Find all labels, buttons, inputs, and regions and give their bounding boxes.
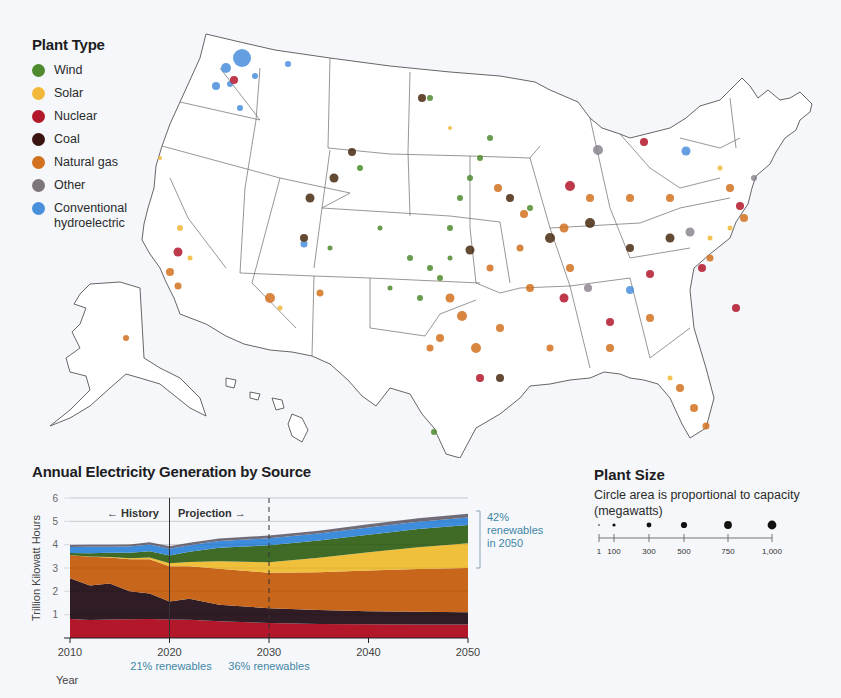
- legend-label: Coal: [54, 132, 80, 147]
- coal-swatch-icon: [32, 133, 45, 146]
- x-tick-label: 2010: [58, 646, 82, 658]
- legend-label-line2: hydroelectric: [54, 216, 127, 231]
- legend-item-natural-gas: Natural gas: [32, 155, 172, 170]
- generation-area-chart: 123456 20102020203020402050 Trillion Kil…: [28, 488, 568, 698]
- y-tick-label: 1: [52, 609, 58, 620]
- legend-label: Nuclear: [54, 109, 97, 124]
- renewables-2050-note-line2: renewables: [487, 524, 544, 536]
- renewables-2030-note: 36% renewables: [228, 660, 310, 672]
- size-circles: [598, 521, 776, 530]
- size-tick-label: 500: [677, 547, 691, 556]
- chart-title: Annual Electricity Generation by Source: [32, 463, 311, 480]
- hydroelectric-swatch-icon: [32, 202, 45, 215]
- legend-item-hydroelectric: Conventional hydroelectric: [32, 201, 172, 231]
- legend-label: Wind: [54, 63, 82, 78]
- legend-item-wind: Wind: [32, 63, 172, 78]
- size-tick-label: 300: [642, 547, 656, 556]
- hawaii-maui: [272, 398, 284, 410]
- plant-type-legend-title: Plant Type: [32, 36, 172, 53]
- y-tick-label: 2: [52, 586, 58, 597]
- renewables-2050-note-line3: in 2050: [487, 537, 523, 549]
- size-tick-label: 750: [721, 547, 735, 556]
- plant-size-legend-title: Plant Size: [594, 466, 834, 483]
- x-axis-ticks: 20102020203020402050: [58, 638, 480, 658]
- x-tick-label: 2020: [157, 646, 181, 658]
- solar-swatch-icon: [32, 87, 45, 100]
- other-swatch-icon: [32, 179, 45, 192]
- x-tick-label: 2050: [456, 646, 480, 658]
- history-label: ← History: [107, 507, 160, 519]
- y-axis-ticks: 123456: [52, 493, 58, 621]
- plant-size-scale: 1 100 300 500 750 1,000: [594, 516, 794, 566]
- y-tick-label: 4: [52, 539, 58, 550]
- nuclear-swatch-icon: [32, 110, 45, 123]
- legend-label: Natural gas: [54, 155, 118, 170]
- legend-item-solar: Solar: [32, 86, 172, 101]
- x-tick-label: 2040: [356, 646, 380, 658]
- legend-item-coal: Coal: [32, 132, 172, 147]
- legend-label: Conventional hydroelectric: [54, 201, 127, 231]
- x-axis-label: Year: [56, 674, 79, 686]
- size-axis: [599, 534, 772, 542]
- size-tick-label: 1,000: [762, 547, 783, 556]
- hawaii-kauai: [226, 378, 236, 388]
- legend-label: Other: [54, 178, 85, 193]
- size-tick-label: 100: [607, 547, 621, 556]
- plant-size-legend: Plant Size Circle area is proportional t…: [594, 466, 834, 519]
- size-tick-label: 1: [597, 547, 602, 556]
- renewables-2020-note: 21% renewables: [130, 660, 212, 672]
- hawaii-oahu: [250, 392, 260, 400]
- x-tick-label: 2030: [257, 646, 281, 658]
- plant-size-subtitle-line1: Circle area is proportional to capacity: [594, 487, 834, 503]
- legend-label: Solar: [54, 86, 83, 101]
- y-axis-label: Trillion Kilowatt Hours: [30, 515, 42, 621]
- wind-swatch-icon: [32, 64, 45, 77]
- y-tick-label: 5: [52, 516, 58, 527]
- plant-type-legend: Plant Type Wind Solar Nuclear Coal Natur…: [32, 36, 172, 239]
- legend-item-other: Other: [32, 178, 172, 193]
- renewables-2050-bracket: [476, 511, 480, 568]
- natural-gas-swatch-icon: [32, 156, 45, 169]
- y-tick-label: 3: [52, 563, 58, 574]
- legend-label-line1: Conventional: [54, 201, 127, 216]
- renewables-2050-note-line1: 42%: [487, 511, 509, 523]
- hawaii-island: [288, 414, 308, 442]
- legend-item-nuclear: Nuclear: [32, 109, 172, 124]
- projection-label: Projection →: [178, 507, 246, 519]
- y-tick-label: 6: [52, 493, 58, 504]
